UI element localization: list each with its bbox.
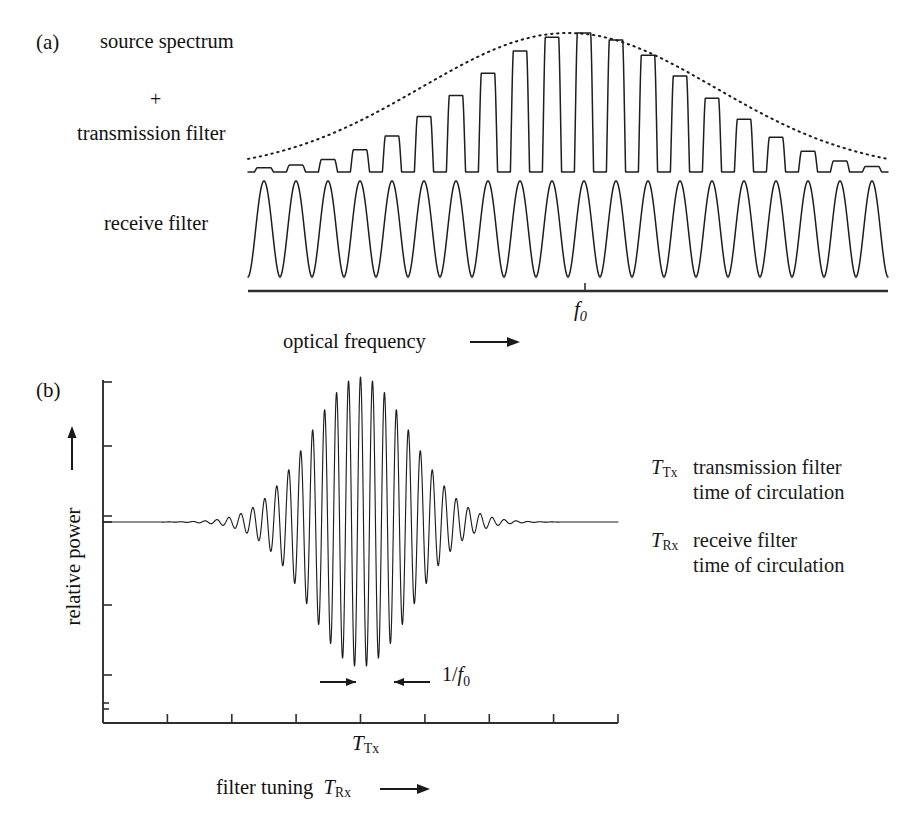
legend-entry-ttx: TTx transmission filter time of circulat… bbox=[651, 455, 844, 505]
panel-a-tag: (a) bbox=[36, 30, 59, 55]
figure-root: (a) source spectrum + transmission filte… bbox=[0, 0, 912, 827]
trx-subscript: Rx bbox=[335, 785, 351, 800]
legend-trx-line2: time of circulation bbox=[693, 553, 844, 578]
legend-trx-line1: receive filter bbox=[693, 528, 844, 553]
label-source-spectrum: source spectrum bbox=[100, 30, 234, 53]
arrow-left-icon bbox=[394, 678, 430, 686]
legend-entry-trx: TRx receive filter time of circulation bbox=[651, 528, 844, 578]
x-axis-direction-arrow-icon bbox=[380, 784, 430, 794]
y-axis-direction-arrow-icon bbox=[68, 426, 77, 470]
panel-b-y-ticks bbox=[103, 382, 112, 709]
ttx-base: T bbox=[352, 731, 364, 755]
correlation-waveform-curve bbox=[103, 377, 618, 666]
panel-a-x-axis-label: optical frequency bbox=[283, 330, 426, 353]
ttx-subscript: Tx bbox=[364, 741, 380, 756]
carrier-period-arrows bbox=[320, 678, 430, 686]
legend-trx-base: T bbox=[651, 529, 662, 551]
annotation-label-inverse-f0: 1/f0 bbox=[442, 663, 470, 690]
legend-description-trx: receive filter time of circulation bbox=[693, 528, 844, 578]
axis-tick-label-f0: f0 bbox=[574, 297, 587, 325]
panel-b-x-axis-label: filter tuning TRx bbox=[216, 776, 351, 801]
transmission-comb-path bbox=[248, 33, 888, 172]
legend-ttx-line1: transmission filter bbox=[693, 455, 844, 480]
inv-f0-subscript: 0 bbox=[463, 674, 470, 689]
legend-ttx-subscript: Tx bbox=[662, 465, 677, 480]
legend-symbol-trx: TRx bbox=[651, 528, 693, 554]
trx-base: T bbox=[324, 776, 335, 798]
legend-ttx-line2: time of circulation bbox=[693, 480, 844, 505]
f0-subscript: 0 bbox=[580, 308, 587, 324]
label-plus-sign: + bbox=[150, 88, 161, 111]
legend-ttx-base: T bbox=[651, 456, 662, 478]
label-receive-filter: receive filter bbox=[104, 212, 208, 235]
panel-b-y-axis-label: relative power bbox=[62, 467, 85, 667]
transmission-spectrum-curve bbox=[248, 33, 888, 172]
filter-tuning-text: filter tuning bbox=[216, 776, 313, 798]
receive-filter-curve bbox=[248, 181, 888, 277]
inv-f0-prefix: 1/ bbox=[442, 663, 458, 685]
panel-b-waveform-path bbox=[103, 377, 618, 666]
panel-b-tag: (b) bbox=[36, 378, 61, 403]
source-spectrum-envelope-path bbox=[248, 33, 888, 159]
x-tick-label-ttx: TTx bbox=[352, 731, 379, 757]
legend-trx-subscript: Rx bbox=[662, 538, 678, 553]
source-spectrum-envelope-dotted bbox=[248, 33, 888, 159]
optical-frequency-arrow-icon bbox=[470, 337, 520, 347]
receive-filter-path bbox=[248, 181, 888, 277]
legend-description-ttx: transmission filter time of circulation bbox=[693, 455, 844, 505]
legend-symbol-ttx: TTx bbox=[651, 455, 693, 481]
panel-b-plot bbox=[68, 377, 619, 794]
arrow-right-icon bbox=[320, 678, 356, 686]
label-transmission-filter: transmission filter bbox=[77, 122, 226, 145]
panel-b-x-ticks bbox=[167, 714, 618, 723]
panel-a-plot bbox=[248, 33, 888, 291]
